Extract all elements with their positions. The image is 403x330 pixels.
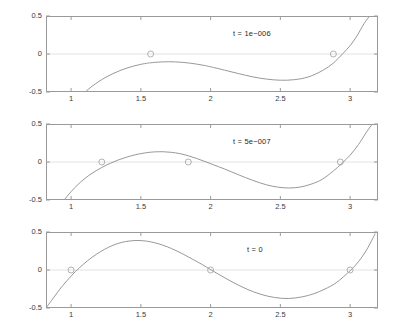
y-axis-tick-label: 0 — [12, 266, 42, 274]
subplot-title: t = 0 — [247, 245, 263, 254]
x-axis-tick-label: 1.5 — [126, 311, 156, 319]
x-axis-tick-label: 3 — [335, 311, 365, 319]
matlab-figure: -0.500.511.522.53t = 1e−006 -0.500.511.5… — [0, 0, 403, 330]
x-axis-tick-label: 2 — [196, 311, 226, 319]
plot-graphics — [0, 0, 403, 330]
y-axis-tick-label: 0.5 — [12, 228, 42, 236]
y-axis-tick-label: -0.5 — [12, 304, 42, 312]
x-axis-tick-label: 2.5 — [265, 311, 295, 319]
data-curve — [46, 234, 375, 308]
x-axis-tick-label: 1 — [56, 311, 86, 319]
